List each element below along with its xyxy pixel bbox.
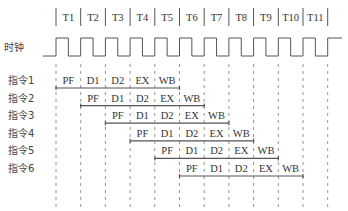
stage-pf: PF bbox=[161, 145, 173, 156]
instruction-label: 指令4 bbox=[8, 127, 34, 139]
instruction-rows: 指令1PFD1D2EXWB指令2PFD1D2EXWB指令3PFD1D2EXWB指… bbox=[8, 74, 303, 178]
pipeline-timing-diagram: T1T2T3T4T5T6T7T8T9T10T11 时钟 指令1PFD1D2EXW… bbox=[0, 0, 348, 211]
stage-pf: PF bbox=[63, 75, 75, 86]
stage-d1: D1 bbox=[185, 145, 198, 156]
period-label-t2: T2 bbox=[87, 12, 99, 23]
instruction-row: 指令1PFD1D2EXWB bbox=[8, 74, 180, 90]
period-headers: T1T2T3T4T5T6T7T8T9T10T11 bbox=[56, 8, 328, 26]
stage-ex: EX bbox=[259, 163, 273, 174]
clock-label: 时钟 bbox=[4, 41, 24, 53]
stage-pf: PF bbox=[137, 128, 149, 139]
stage-wb: WB bbox=[183, 93, 200, 104]
stage-ex: EX bbox=[210, 128, 224, 139]
instruction-label: 指令2 bbox=[8, 92, 34, 104]
stage-wb: WB bbox=[233, 128, 250, 139]
instruction-label: 指令3 bbox=[8, 109, 34, 121]
stage-pf: PF bbox=[112, 110, 124, 121]
stage-d2: D2 bbox=[210, 145, 223, 156]
stage-d1: D1 bbox=[136, 110, 149, 121]
period-label-t10: T10 bbox=[282, 12, 299, 23]
instruction-label: 指令6 bbox=[8, 162, 34, 174]
instruction-row: 指令5PFD1D2EXWB bbox=[8, 144, 278, 160]
stage-wb: WB bbox=[208, 110, 225, 121]
stage-d1: D1 bbox=[210, 163, 223, 174]
stage-wb: WB bbox=[159, 75, 176, 86]
stage-d2: D2 bbox=[185, 128, 198, 139]
period-label-t6: T6 bbox=[186, 12, 198, 23]
stage-d1: D1 bbox=[161, 128, 174, 139]
stage-ex: EX bbox=[160, 93, 174, 104]
period-label-t8: T8 bbox=[235, 12, 247, 23]
period-label-t3: T3 bbox=[112, 12, 124, 23]
stage-d2: D2 bbox=[111, 75, 124, 86]
stage-ex: EX bbox=[234, 145, 248, 156]
instruction-label: 指令1 bbox=[8, 74, 34, 86]
instruction-label: 指令5 bbox=[8, 144, 34, 156]
stage-ex: EX bbox=[185, 110, 199, 121]
period-label-t7: T7 bbox=[211, 12, 223, 23]
instruction-row: 指令2PFD1D2EXWB bbox=[8, 92, 204, 108]
stage-d1: D1 bbox=[87, 75, 100, 86]
period-label-t4: T4 bbox=[137, 12, 149, 23]
stage-d2: D2 bbox=[235, 163, 248, 174]
stage-pf: PF bbox=[87, 93, 99, 104]
stage-d2: D2 bbox=[161, 110, 174, 121]
instruction-row: 指令3PFD1D2EXWB bbox=[8, 109, 229, 125]
stage-wb: WB bbox=[257, 145, 274, 156]
clock-waveform bbox=[43, 38, 342, 56]
stage-ex: EX bbox=[135, 75, 149, 86]
stage-d2: D2 bbox=[136, 93, 149, 104]
period-label-t11: T11 bbox=[307, 12, 324, 23]
instruction-row: 指令4PFD1D2EXWB bbox=[8, 127, 254, 143]
stage-d1: D1 bbox=[111, 93, 124, 104]
instruction-row: 指令6PFD1D2EXWB bbox=[8, 162, 303, 178]
period-label-t1: T1 bbox=[63, 12, 75, 23]
stage-pf: PF bbox=[186, 163, 198, 174]
period-label-t5: T5 bbox=[161, 12, 173, 23]
stage-wb: WB bbox=[282, 163, 299, 174]
period-label-t9: T9 bbox=[260, 12, 272, 23]
